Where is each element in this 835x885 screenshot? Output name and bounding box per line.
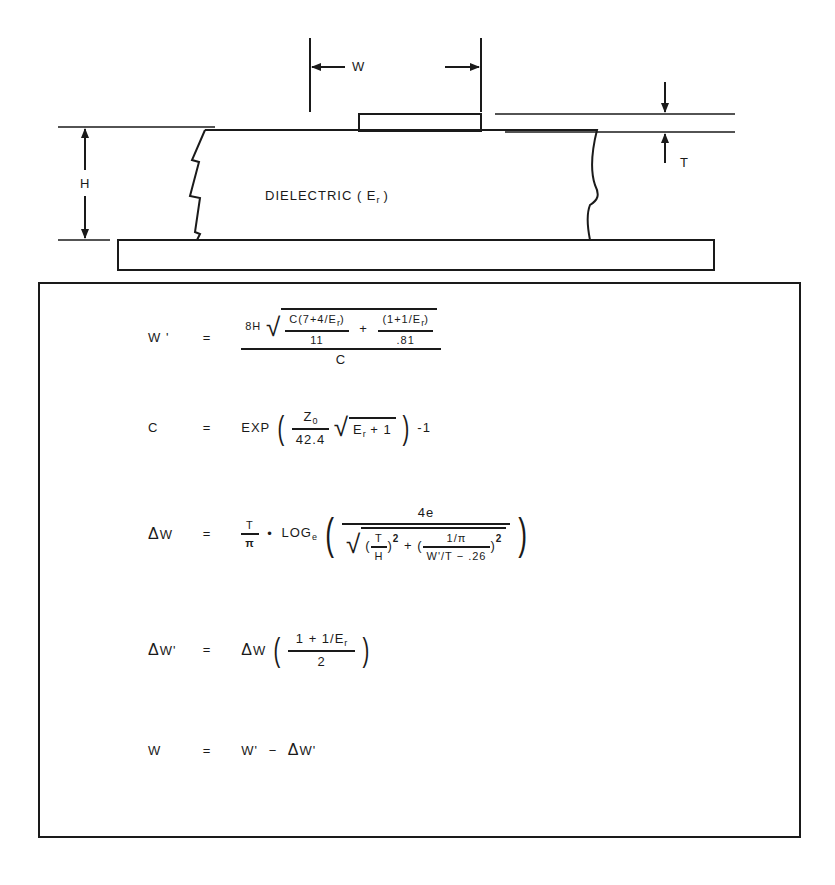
dielectric-label: DIELECTRIC ( Er) (265, 188, 389, 205)
microstrip-cross-section (0, 0, 835, 290)
w-prime-fraction: 8H √ C(7+4/Er)11 + (1+1/Er).81 C (241, 308, 441, 367)
equation-delta-w: ΔW = Tπ • LOGe ( 4e √ (TH)2 + (1/πW'/T −… (148, 505, 531, 562)
conductor-strip (359, 114, 481, 131)
equation-c: C = EXP ( Z042.4 √Er + 1 ) -1 (148, 408, 431, 447)
ground-plane (118, 240, 714, 270)
eq-lhs: W ' (148, 330, 198, 345)
equation-w-prime: W ' = 8H √ C(7+4/Er)11 + (1+1/Er).81 C (148, 308, 441, 367)
height-label: H (80, 176, 90, 191)
dielectric-body (190, 130, 598, 240)
equation-delta-w-prime: ΔW' = ΔW ( 1 + 1/Er2 ) (148, 630, 372, 669)
eq-equals: = (203, 330, 237, 345)
width-label: W (352, 59, 365, 74)
equation-w: W = W' − ΔW' (148, 741, 316, 759)
thickness-label: T (680, 155, 689, 170)
